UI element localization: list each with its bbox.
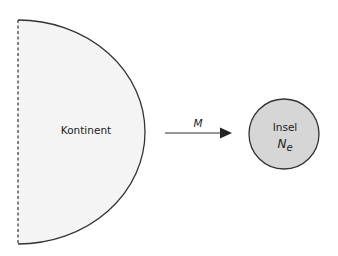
- effective-size-symbol: N: [277, 137, 286, 151]
- migration-label: M: [193, 117, 202, 129]
- island-model-diagram: Kontinent M Insel Ne: [0, 0, 338, 256]
- island-label: Insel: [273, 121, 298, 133]
- effective-size-subscript: e: [286, 142, 292, 153]
- continent-label: Kontinent: [61, 124, 111, 136]
- migration-arrow-head: [220, 128, 232, 139]
- island-shape: [249, 99, 319, 169]
